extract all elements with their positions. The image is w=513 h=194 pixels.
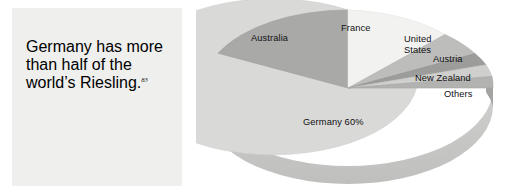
pie-label-united-states: UnitedStates: [404, 34, 431, 55]
pie-label-others: Others: [444, 89, 473, 100]
footnote-reference: 83: [141, 76, 148, 83]
pull-quote-sentence: Germany has more than half of the world’…: [26, 38, 163, 91]
pull-quote-text: Germany has more than half of the world’…: [26, 38, 168, 92]
pie-label-france: France: [341, 23, 371, 34]
pull-quote-panel: Germany has more than half of the world’…: [12, 8, 182, 186]
pie-chart: Australia France UnitedStates Austria Ne…: [196, 0, 513, 194]
pie-label-new-zealand: New Zealand: [415, 73, 471, 84]
figure-riesling-share: Germany has more than half of the world’…: [0, 0, 513, 194]
pie-label-austria: Austria: [433, 54, 463, 65]
pie-label-germany: Germany 60%: [303, 117, 364, 128]
pie-label-australia: Australia: [251, 33, 288, 44]
